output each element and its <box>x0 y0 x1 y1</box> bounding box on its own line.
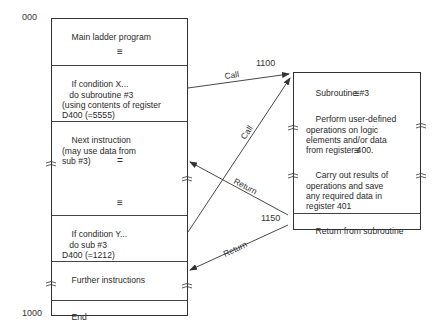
break-marks <box>46 124 426 289</box>
call-arrow-2 <box>188 78 290 232</box>
arrows-layer: Call Call Return Return <box>0 0 437 327</box>
call-label-2: Call <box>238 123 254 141</box>
call-label-1: Call <box>224 69 240 81</box>
return-label-2: Return <box>222 239 249 259</box>
return-label-1: Return <box>232 176 259 197</box>
